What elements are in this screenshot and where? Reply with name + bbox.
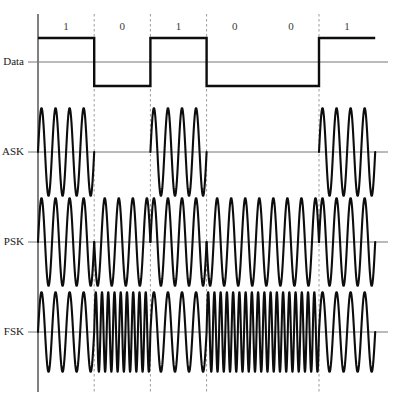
row-psk: PSK — [4, 198, 388, 285]
row-ask: ASK — [2, 108, 388, 195]
row-data: Data — [3, 38, 388, 86]
bit-label-2: 1 — [176, 20, 182, 32]
bit-label-5: 1 — [344, 20, 350, 32]
row-fsk: FSK — [4, 292, 388, 371]
row-label-psk: PSK — [4, 235, 24, 247]
row-label-data: Data — [3, 55, 24, 67]
row-label-ask: ASK — [2, 145, 24, 157]
bit-label-4: 0 — [288, 20, 294, 32]
row-label-fsk: FSK — [4, 325, 24, 337]
bit-label-3: 0 — [232, 20, 238, 32]
bit-label-0: 1 — [63, 20, 69, 32]
bit-label-1: 0 — [120, 20, 126, 32]
waveform-canvas: 101001DataASKPSKFSK — [0, 0, 411, 408]
modulation-diagram: 101001DataASKPSKFSK — [0, 0, 411, 408]
